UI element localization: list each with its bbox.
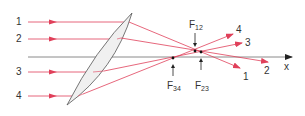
- spherical-aberration-diagram: x 1 2 3 4 4 3 2 1: [0, 0, 305, 116]
- arrow-icon: [49, 70, 57, 75]
- out-ray-label-3: 3: [245, 37, 251, 48]
- focal-label-f34: F34: [167, 80, 181, 92]
- focal-point-f12: [194, 50, 197, 53]
- outgoing-ray-labels: 4 3 2 1: [236, 24, 270, 82]
- out-ray-label-4: 4: [236, 24, 242, 35]
- arrow-icon: [49, 37, 57, 42]
- focal-point-f23: [200, 51, 203, 54]
- incoming-ray-labels: 1 2 3 4: [16, 16, 22, 101]
- arrow-icon: [49, 94, 57, 99]
- focal-label-f12: F12: [189, 19, 203, 31]
- arrow-icon: [49, 20, 57, 25]
- focal-point-f34: [172, 57, 175, 60]
- out-ray-label-1: 1: [243, 71, 249, 82]
- out-ray-label-2: 2: [264, 65, 270, 76]
- arrow-up-icon: [199, 58, 203, 62]
- focal-label-f23: F23: [195, 80, 209, 92]
- arrow-up-icon: [171, 64, 175, 68]
- outgoing-ray-1: [129, 22, 240, 68]
- ray-label-3: 3: [16, 66, 22, 77]
- ray-direction-arrows: [49, 20, 57, 99]
- focal-point-labels: F12 F34 F23: [167, 19, 209, 92]
- ray-label-2: 2: [16, 33, 22, 44]
- arrow-down-icon: [193, 43, 197, 47]
- ray-label-4: 4: [16, 90, 22, 101]
- ray-label-1: 1: [16, 16, 22, 27]
- lens: [67, 13, 132, 105]
- axis-label-x: x: [284, 61, 289, 72]
